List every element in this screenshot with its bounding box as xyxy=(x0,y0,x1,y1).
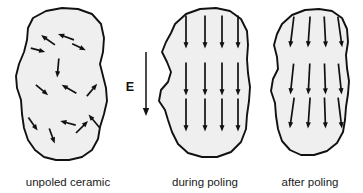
poling-diagram: unpoled ceramic E during poling after po… xyxy=(0,0,363,193)
panel-after-poling: after poling xyxy=(271,9,349,188)
domain-arrow-shaft xyxy=(324,64,325,90)
domain-arrow-shaft xyxy=(324,98,325,124)
panel-during-poling: during poling xyxy=(159,8,250,188)
field-arrow-head xyxy=(143,108,149,116)
caption-after-poling: after poling xyxy=(282,176,339,188)
caption-during-poling: during poling xyxy=(172,176,238,188)
caption-unpoled-ceramic: unpoled ceramic xyxy=(26,176,111,188)
panel-unpoled-ceramic: unpoled ceramic xyxy=(16,8,110,188)
figure-container: unpoled ceramic E during poling after po… xyxy=(0,0,363,193)
grain-outline-unpoled xyxy=(16,8,107,160)
electric-field-indicator: E xyxy=(126,52,149,116)
field-arrow-down-icon xyxy=(143,52,149,116)
field-label-E: E xyxy=(126,80,134,94)
grain-outline-after xyxy=(271,9,349,155)
